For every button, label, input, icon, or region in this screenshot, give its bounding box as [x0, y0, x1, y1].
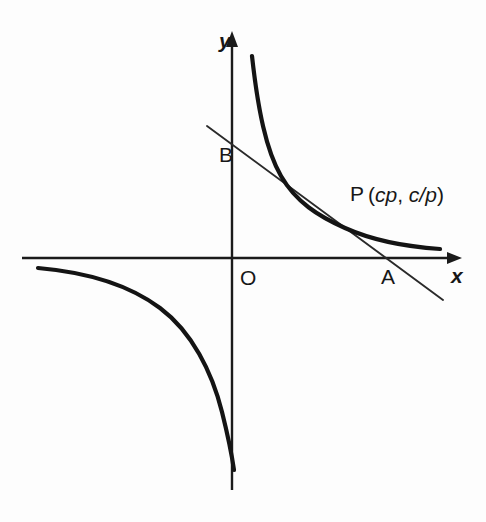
origin-label: O [240, 267, 256, 288]
coord-open-paren: ( [368, 183, 375, 206]
graph-canvas [0, 0, 486, 522]
hyperbola-figure: y x O A B P (cp, c/p) [0, 0, 486, 522]
coord-y-value: c/p [409, 183, 437, 206]
x-axis-label: x [451, 265, 463, 286]
coord-close-paren: ) [437, 183, 444, 206]
coord-separator: , [397, 183, 409, 206]
x-axis-arrowhead [447, 252, 462, 264]
point-b-label: B [219, 144, 233, 165]
hyperbola-branch-upper-right [252, 56, 440, 249]
point-p-label: P [350, 183, 364, 204]
point-p-coordinates: (cp, c/p) [368, 183, 444, 207]
hyperbola-branch-lower-left [38, 268, 234, 470]
y-axis-label: y [219, 30, 231, 51]
coord-x-value: cp [375, 183, 397, 206]
point-a-label: A [381, 266, 395, 287]
